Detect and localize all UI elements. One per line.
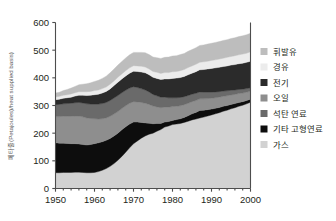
x-tick-label: 1950 (45, 194, 66, 205)
y-tick-label: 200 (33, 128, 49, 139)
x-tick-label: 1980 (162, 194, 183, 205)
y-tick-label: 100 (33, 155, 49, 166)
legend-swatch (261, 79, 268, 86)
legend-item[interactable]: 오일 (261, 93, 289, 103)
legend-label: 휘발유 (273, 47, 297, 57)
y-axis-title: 페타줄(Petajoules)/heat supplied basis) (7, 52, 15, 160)
stacked-area-chart: 195019601970198019902000 010020030040050… (0, 0, 336, 221)
legend-swatch (261, 64, 268, 71)
x-tick-label: 1970 (123, 194, 144, 205)
x-tick-label: 2000 (240, 194, 261, 205)
legend-swatch (261, 95, 268, 102)
legend-swatch (261, 110, 268, 117)
legend-item[interactable]: 가스 (261, 140, 289, 150)
chart-canvas: 195019601970198019902000 010020030040050… (0, 0, 336, 221)
legend-swatch (261, 141, 268, 148)
legend-label: 석탄 연료 (273, 109, 307, 119)
legend-swatch (261, 48, 268, 55)
y-tick-label: 300 (33, 100, 49, 111)
legend-item[interactable]: 기타 고형연료 (261, 124, 323, 134)
legend-label: 경유 (273, 62, 289, 72)
legend: 휘발유경유전기오일석탄 연료기타 고형연료가스 (261, 47, 323, 150)
x-tick-labels: 195019601970198019902000 (45, 194, 261, 205)
legend-label: 가스 (273, 140, 289, 150)
legend-item[interactable]: 휘발유 (261, 47, 297, 57)
y-axis-title-label: 페타줄(Petajoules)/heat supplied basis) (7, 52, 15, 160)
y-tick-labels: 0100200300400500600 (33, 17, 49, 194)
legend-label: 기타 고형연료 (273, 124, 323, 134)
legend-label: 오일 (273, 93, 289, 103)
x-tick-label: 1960 (84, 194, 105, 205)
y-tick-label: 500 (33, 45, 49, 56)
y-tick-label: 400 (33, 72, 49, 83)
legend-item[interactable]: 경유 (261, 62, 289, 72)
legend-item[interactable]: 전기 (261, 78, 289, 88)
legend-item[interactable]: 석탄 연료 (261, 109, 307, 119)
y-tick-label: 0 (44, 183, 49, 194)
x-tick-label: 1990 (201, 194, 222, 205)
legend-label: 전기 (273, 78, 289, 88)
plot-areas (56, 33, 251, 188)
legend-swatch (261, 126, 268, 133)
y-tick-label: 600 (33, 17, 49, 28)
